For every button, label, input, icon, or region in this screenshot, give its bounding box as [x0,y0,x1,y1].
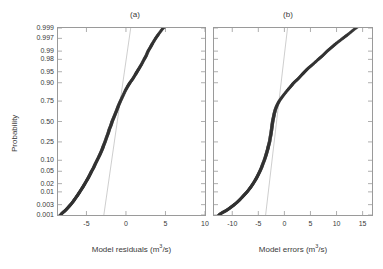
data-point-series [217,28,370,215]
y-tick-label: 0.997 [10,34,54,41]
panel-b-canvas [214,28,372,215]
data-point-series [59,28,179,215]
y-tick-label: 0.95 [10,68,54,75]
panel-b-x-axis-label-text: Model errors (m [259,245,315,254]
y-tick-label: 0.01 [10,188,54,195]
y-tick-label: 0.001 [10,211,54,218]
y-tick-label: 0.02 [10,180,54,187]
reference-line [99,28,135,215]
y-tick-label: 0.99 [10,47,54,54]
x-tick-label: 10 [325,220,349,227]
x-tick-label: 5 [153,220,177,227]
panel-b-x-axis-label: Model errors (m3/s) [213,243,373,254]
y-tick-label: 0.999 [10,24,54,31]
y-tick-label: 0.003 [10,201,54,208]
x-tick-label: 0 [114,220,138,227]
panel-b-title: (b) [228,10,348,19]
y-tick-label: 0.98 [10,55,54,62]
y-tick-label: 0.50 [10,118,54,125]
panel-b-plot-frame [213,27,373,216]
x-tick-label: 15 [351,220,375,227]
panel-a-title: (a) [75,10,195,19]
x-tick-label: 10 [193,220,217,227]
figure-container: Probability (a) Model residuals (m3/s) (… [0,0,383,269]
y-tick-label: 0.90 [10,79,54,86]
panel-a-x-axis-label-tail: /s) [162,245,171,254]
x-tick-label: -5 [246,220,270,227]
panel-a-plot-frame [57,27,206,216]
panel-a-x-axis-label-text: Model residuals (m [92,245,160,254]
x-tick-label: 5 [298,220,322,227]
y-tick-label: 0.75 [10,97,54,104]
y-tick-label: 0.25 [10,138,54,145]
x-tick-label: -10 [220,220,244,227]
panel-a-canvas [58,28,205,215]
x-tick-label: 0 [272,220,296,227]
panel-a-x-axis-label: Model residuals (m3/s) [57,243,206,254]
y-tick-label: 0.10 [10,156,54,163]
x-tick-label: -5 [74,220,98,227]
panel-b-x-axis-label-tail: /s) [318,245,327,254]
y-tick-label: 0.05 [10,167,54,174]
reference-line [262,28,292,215]
